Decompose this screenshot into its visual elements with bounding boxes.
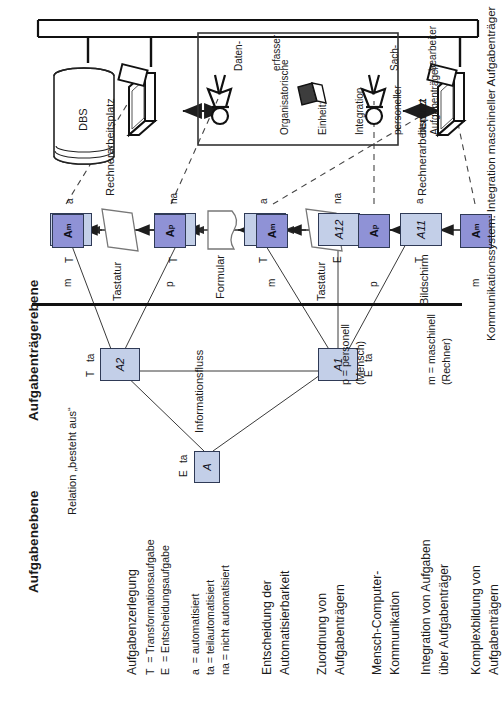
task-auto-A12: na	[332, 193, 343, 204]
label-dbs: DBS	[77, 108, 89, 131]
sachbearbeiter-line2: bearbeiter	[427, 26, 440, 71]
label-formular: Formular	[214, 255, 226, 299]
bearer-letter: A	[164, 229, 176, 237]
legend-block6-line1: Komplexbildung von	[470, 565, 484, 675]
bearer-subscript: p	[166, 225, 175, 230]
datenerfasser-line1: Daten-	[233, 35, 246, 71]
label-informationsfluss: Informationsfluss	[193, 350, 205, 433]
person-icon-datenerfasser	[208, 75, 231, 124]
legend-block4-line1: Mensch-Computer-	[371, 571, 385, 675]
sachbearbeiter-line1: Sach-	[389, 26, 402, 71]
bearer-letter: A	[62, 230, 74, 238]
label-relation-besteht-aus: Relation „besteht aus“	[66, 407, 78, 515]
bearer-box-Am-1[interactable]: Am	[52, 214, 84, 248]
legend-block6-line2: Aufgabenträgern	[488, 584, 502, 675]
label-tastatur-mid: Tastatur	[315, 262, 327, 301]
bearer-kind-3: m	[266, 279, 277, 287]
legend-block4-line2: Kommunikation	[389, 591, 403, 675]
image-frame: Aufgabenebene Aufgabenträgerebene A A1 A…	[8, 8, 493, 701]
legend-key-p-line1: p = personell	[340, 324, 352, 385]
task-type-A: E	[178, 470, 189, 477]
label-tastatur-top: Tastatur	[111, 262, 123, 301]
legend-block2-line1: Entscheidung der	[261, 580, 275, 675]
computer-icon-top	[118, 64, 155, 135]
legend-block5-line2: über Aufgabenträger	[438, 564, 452, 675]
bearer-letter: A	[266, 230, 278, 238]
legend-block3-line1: Zuordnung von	[316, 593, 330, 675]
separator-levels	[32, 303, 462, 306]
task-auto-A: ta	[178, 455, 189, 463]
label-datenerfasser: Daten- erfasser	[208, 35, 308, 71]
bearer-subscript: m	[268, 224, 277, 231]
media-tastatur-top	[102, 209, 138, 251]
diagram-canvas: Aufgabenebene Aufgabenträgerebene A A1 A…	[8, 8, 493, 701]
bearer-kind-2: p	[164, 281, 175, 287]
datenerfasser-line2: erfasser	[271, 35, 284, 71]
task-auto-A2: ta	[85, 354, 96, 362]
task-type-A22: T	[64, 257, 75, 263]
task-type-A12: E	[332, 256, 343, 263]
legend-key-m-line2: (Rechner)	[441, 338, 453, 385]
heading-aufgabentraegerebene: Aufgabenträgerebene	[26, 280, 41, 421]
task-box-A1[interactable]: A1	[318, 348, 358, 381]
bearer-kind-1: m	[62, 279, 73, 287]
task-box-A[interactable]: A	[194, 451, 220, 483]
legend-block1-line4: ta = teilautomatisiert	[205, 580, 217, 675]
legend-key-m-line1: m = maschinell	[426, 314, 438, 385]
label-sachbearbeiter: Sach- bearbeiter	[364, 26, 464, 71]
bearer-letter: A	[368, 229, 380, 237]
legend-block1-line5: na = nicht automatisiert	[220, 565, 232, 675]
task-auto-A13: a	[258, 198, 269, 204]
task-auto-A11: a	[414, 198, 425, 204]
task-box-A2[interactable]: A2	[100, 348, 140, 381]
task-auto-A21: na	[168, 193, 179, 204]
bearer-box-Ap-1[interactable]: Ap	[154, 214, 186, 248]
task-box-A12[interactable]: A12	[318, 213, 360, 246]
bearer-subscript: m	[64, 224, 73, 231]
heading-aufgabenebene: Aufgabenebene	[26, 490, 41, 593]
media-formular	[208, 211, 237, 249]
bearer-box-Ap-2[interactable]: Ap	[358, 214, 390, 248]
task-type-A21: T	[168, 257, 179, 263]
legend-block1-line3: a = automatisiert	[190, 593, 202, 675]
bearer-subscript: m	[472, 224, 481, 231]
bearer-subscript: p	[370, 225, 379, 230]
task-type-A13: T	[258, 257, 269, 263]
legend-block2-line2: Automatisierbarkeit	[279, 571, 293, 675]
legend-key-p-line2: (Mensch)	[355, 341, 367, 385]
task-auto-A22: a	[64, 198, 75, 204]
label-rechnerarbeitsplatz-top: Rechnerarbeitsplatz	[104, 98, 116, 196]
bearer-kind-5: m	[470, 279, 481, 287]
label-bildschirm: Bildschirm	[418, 254, 430, 305]
legend-block5-line1: Integration von Aufgaben	[420, 539, 434, 675]
bearer-letter: A	[470, 230, 482, 238]
legend-block1-line1: T = Transformationsaufgabe	[145, 539, 157, 675]
legend-block1-line2: E = Entscheidungsaufgabe	[160, 545, 172, 675]
diagram-page: Aufgabenebene Aufgabenträgerebene A A1 A…	[0, 0, 503, 711]
org-unit-line2: Einheit:	[317, 59, 330, 135]
caption-kommunikationssystem: Kommunikationssystem: Integration maschi…	[484, 7, 497, 341]
task-box-A11[interactable]: A11	[400, 213, 442, 246]
bearer-kind-4: p	[368, 281, 379, 287]
bearer-box-Am-2[interactable]: Am	[256, 214, 288, 248]
legend-block1-title: Aufgabenzerlegung	[126, 569, 140, 675]
legend-block3-line2: Aufgabenträgern	[334, 584, 348, 675]
task-type-A2: T	[85, 371, 96, 377]
